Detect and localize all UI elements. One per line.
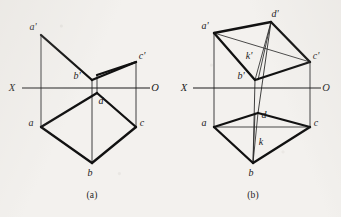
projection-drawing: X O a' b' c' d a b c xyxy=(0,0,341,217)
vertex-label-d-prime-b: d' xyxy=(271,8,279,19)
figure-a-group: X O a' b' c' d a b c xyxy=(8,21,159,178)
edge-c-prime-d-prime xyxy=(97,62,136,75)
vertex-label-c-prime-a: c' xyxy=(139,50,146,61)
vertex-label-a-a: a xyxy=(29,117,34,128)
vertex-label-b-prime-b: b' xyxy=(237,70,245,81)
figure-b-group: X O a' d' c' b' k' d k a c b xyxy=(180,8,330,178)
vertex-label-c-prime-b: c' xyxy=(313,50,320,61)
vertex-label-d-a: d xyxy=(99,95,105,106)
edge-b-c xyxy=(92,127,136,163)
vertex-label-b-a: b xyxy=(88,167,93,178)
vertex-label-b-prime-a: b' xyxy=(73,70,81,81)
axis-label-o-b: O xyxy=(322,82,330,93)
vertex-label-a-prime-a: a' xyxy=(29,21,37,32)
caption-figure-b: (b) xyxy=(233,190,273,200)
axis-label-x-a: X xyxy=(8,82,16,93)
figure-sheet: X O a' b' c' d a b c xyxy=(0,0,341,217)
edge-b-prime-c-prime-b xyxy=(255,62,310,80)
edge-a-d-b xyxy=(214,113,258,127)
edge-a-d xyxy=(41,93,97,127)
projector-d-b xyxy=(258,22,271,113)
vertex-label-k-b: k xyxy=(259,136,264,147)
axis-label-x-b: X xyxy=(180,82,188,93)
vertex-label-c-b: c xyxy=(314,117,319,128)
caption-figure-a: (a) xyxy=(72,190,112,200)
vertex-label-a-b: a xyxy=(202,117,207,128)
edge-a-prime-b-prime xyxy=(41,35,92,80)
edge-a-b-b xyxy=(214,127,253,163)
edge-a-b xyxy=(41,127,92,163)
vertex-label-b-b: b xyxy=(249,167,254,178)
edge-d-prime-b-prime xyxy=(255,22,271,80)
vertex-label-c-a: c xyxy=(140,117,145,128)
edge-d-prime-b-prime-2 xyxy=(258,22,271,80)
edge-a-prime-d-prime xyxy=(214,22,271,33)
vertex-label-k-prime-b: k' xyxy=(246,50,253,61)
axis-label-o-a: O xyxy=(151,82,159,93)
vertex-label-a-prime-b: a' xyxy=(201,20,209,31)
